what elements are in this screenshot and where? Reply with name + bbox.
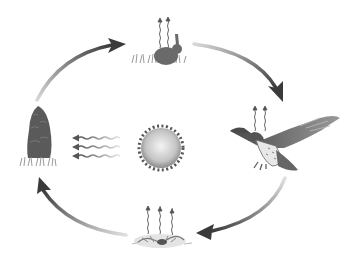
cycle-arrow-decomposers-to-tree <box>37 177 126 235</box>
rabbit-icon <box>132 34 186 65</box>
cycle-arrow-hawk-to-decomposers <box>196 178 285 240</box>
energy-cycle-diagram <box>0 0 359 267</box>
cycle-arrow-rabbit-to-hawk <box>194 44 283 102</box>
sunlight-arrows <box>72 135 120 160</box>
hawk-icon <box>230 116 340 171</box>
tree-icon <box>20 106 56 166</box>
heat-arrows-decomposers <box>146 206 174 236</box>
heat-arrows-hawk <box>253 106 267 131</box>
cycle-arrow-tree-to-rabbit <box>37 38 126 100</box>
decomposer-icon <box>132 234 192 248</box>
sun-icon <box>139 126 183 170</box>
heat-arrows-rabbit <box>158 17 170 48</box>
